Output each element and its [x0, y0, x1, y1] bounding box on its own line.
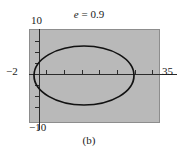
ellipse-curve — [34, 46, 134, 105]
figure-caption: (b) — [0, 134, 178, 146]
y-min-label: −10 — [29, 122, 46, 133]
x-min-label: −2 — [6, 66, 18, 77]
curve-layer — [0, 0, 178, 152]
figure-container: e = 0.9 10 −2 35 −10 (b) — [0, 0, 178, 152]
x-max-label: 35 — [162, 66, 173, 77]
y-max-label: 10 — [31, 15, 42, 26]
